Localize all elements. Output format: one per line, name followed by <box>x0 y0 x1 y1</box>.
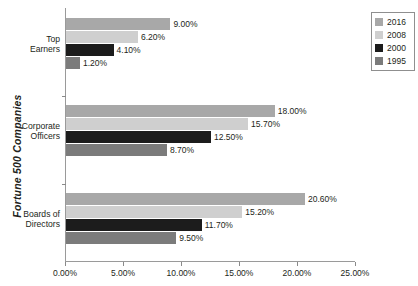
x-axis-tick-label: 25.00% <box>341 268 370 278</box>
bar-row: 9.00% <box>66 18 355 30</box>
x-axis-tick <box>239 262 240 266</box>
bar-value-label: 15.20% <box>242 207 274 217</box>
bar-value-label: 1.20% <box>80 58 107 68</box>
legend-swatch-icon <box>375 44 383 52</box>
bar[interactable] <box>66 18 170 30</box>
legend-label: 2016 <box>387 18 406 27</box>
bar[interactable] <box>66 206 242 218</box>
x-axis-tick <box>123 262 124 266</box>
bar-group: 18.00%15.70%12.50%8.70% <box>66 105 355 157</box>
bar[interactable] <box>66 118 248 130</box>
bar-row: 9.50% <box>66 232 355 244</box>
legend-item[interactable]: 1995 <box>375 55 412 67</box>
bar-row: 4.10% <box>66 44 355 56</box>
x-axis-tick <box>355 262 356 266</box>
bar-value-label: 15.70% <box>248 119 280 129</box>
bar-row: 11.70% <box>66 219 355 231</box>
legend-swatch-icon <box>375 18 383 26</box>
bar-value-label: 9.50% <box>176 233 203 243</box>
category-label-line: Corporate <box>0 121 60 131</box>
legend-label: 1995 <box>387 57 406 66</box>
legend-items: 2016200820001995 <box>375 16 412 67</box>
bar[interactable] <box>66 232 176 244</box>
legend-swatch-icon <box>375 31 383 39</box>
y-axis-tick <box>62 184 66 185</box>
bar-row: 15.20% <box>66 206 355 218</box>
bar-value-label: 18.00% <box>275 106 307 116</box>
y-axis-tick <box>62 96 66 97</box>
x-axis-tick <box>181 262 182 266</box>
category-label-line: Officers <box>0 131 60 141</box>
category-label: CorporateOfficers <box>0 121 60 141</box>
bar[interactable] <box>66 44 114 56</box>
category-label-line: Top <box>0 34 60 44</box>
category-label: Boards ofDirectors <box>0 209 60 229</box>
legend-swatch-icon <box>375 57 383 65</box>
bar-row: 12.50% <box>66 131 355 143</box>
bar-row: 8.70% <box>66 144 355 156</box>
bar-row: 20.60% <box>66 193 355 205</box>
bar-row: 6.20% <box>66 31 355 43</box>
bar-value-label: 6.20% <box>138 32 165 42</box>
legend-label: 2008 <box>387 31 406 40</box>
bar-group: 20.60%15.20%11.70%9.50% <box>66 193 355 245</box>
bar-group: 9.00%6.20%4.10%1.20% <box>66 18 355 70</box>
bar[interactable] <box>66 193 305 205</box>
bar[interactable] <box>66 105 275 117</box>
x-axis-tick-label: 10.00% <box>167 268 196 278</box>
x-axis-tick-label: 15.00% <box>225 268 254 278</box>
x-axis-tick-label: 20.00% <box>283 268 312 278</box>
legend-label: 2000 <box>387 44 406 53</box>
legend-item[interactable]: 2000 <box>375 42 412 54</box>
category-label: TopEarners <box>0 34 60 54</box>
x-axis-tick-label: 5.00% <box>111 268 135 278</box>
legend: 2016200820001995 <box>371 12 415 71</box>
bar[interactable] <box>66 131 211 143</box>
category-label-line: Earners <box>0 44 60 54</box>
bar[interactable] <box>66 31 138 43</box>
bar-value-label: 12.50% <box>211 132 243 142</box>
bar[interactable] <box>66 219 202 231</box>
bar[interactable] <box>66 144 167 156</box>
bar[interactable] <box>66 57 80 69</box>
legend-item[interactable]: 2008 <box>375 29 412 41</box>
x-axis-tick-label: 0.00% <box>53 268 77 278</box>
x-axis-tick <box>65 262 66 266</box>
bar-value-label: 9.00% <box>170 19 197 29</box>
bar-row: 18.00% <box>66 105 355 117</box>
category-label-line: Directors <box>0 219 60 229</box>
bar-value-label: 4.10% <box>114 45 141 55</box>
bar-value-label: 11.70% <box>202 220 233 230</box>
bar-value-label: 20.60% <box>305 194 337 204</box>
legend-item[interactable]: 2016 <box>375 16 412 28</box>
bar-row: 15.70% <box>66 118 355 130</box>
bar-value-label: 8.70% <box>167 145 194 155</box>
bar-chart: Fortune 500 Companies 9.00%6.20%4.10%1.2… <box>0 0 418 286</box>
bar-row: 1.20% <box>66 57 355 69</box>
x-axis-tick <box>297 262 298 266</box>
plot-area: 9.00%6.20%4.10%1.20%18.00%15.70%12.50%8.… <box>65 8 355 262</box>
category-label-line: Boards of <box>0 209 60 219</box>
